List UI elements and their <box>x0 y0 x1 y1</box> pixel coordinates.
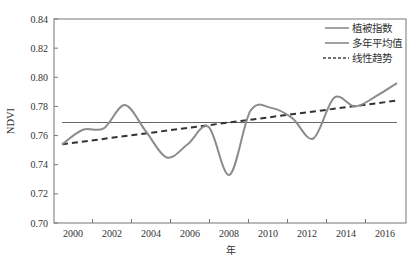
y-tick-label: 0.76 <box>31 130 49 141</box>
x-tick-label: 2002 <box>102 228 122 239</box>
y-tick-label: 0.72 <box>31 188 49 199</box>
y-tick-label: 0.82 <box>31 43 49 54</box>
ndvi-chart: 0.700.720.740.760.780.800.820.84 2000200… <box>0 0 417 268</box>
y-tick-label: 0.78 <box>31 101 49 112</box>
plot-area <box>54 19 406 223</box>
legend-label-mean: 多年平均值 <box>352 37 403 49</box>
x-axis-title: 年 <box>226 244 236 256</box>
x-tick-label: 2016 <box>375 228 395 239</box>
y-tick-label: 0.84 <box>31 14 49 25</box>
x-tick-label: 2014 <box>336 228 356 239</box>
y-tick-label: 0.80 <box>31 72 49 83</box>
x-tick-label: 2004 <box>141 228 161 239</box>
ndvi-curve <box>62 83 397 175</box>
x-tick-label: 2010 <box>258 228 278 239</box>
legend: 植被指数 多年平均值 线性趋势 <box>323 22 403 64</box>
legend-label-trend: 线性趋势 <box>352 52 393 64</box>
x-axis: 200020022004200620082010201220142016 <box>63 219 395 239</box>
y-tick-label: 0.74 <box>31 159 49 170</box>
x-tick-label: 2012 <box>297 228 317 239</box>
y-axis-title: NDVI <box>5 107 16 134</box>
legend-label-ndvi: 植被指数 <box>352 22 393 34</box>
x-tick-label: 2008 <box>219 228 239 239</box>
x-tick-label: 2006 <box>180 228 200 239</box>
x-tick-label: 2000 <box>63 228 83 239</box>
y-tick-label: 0.70 <box>31 218 49 229</box>
